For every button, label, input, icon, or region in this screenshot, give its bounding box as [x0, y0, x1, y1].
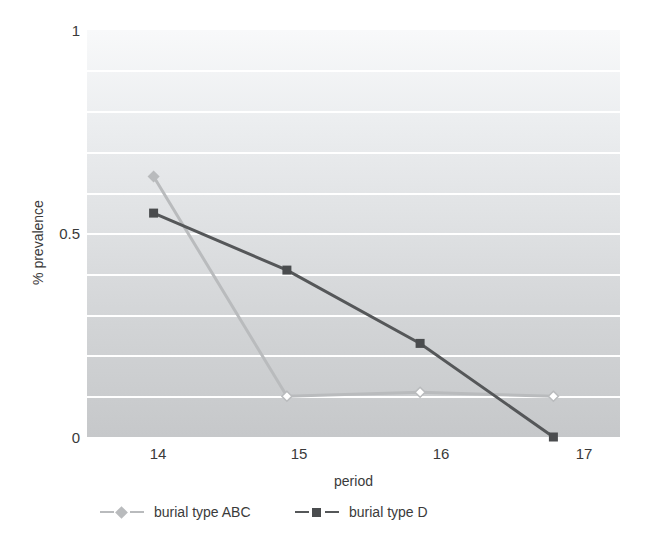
- legend-swatch-d: [295, 505, 339, 519]
- gridline-0.4: [87, 274, 620, 276]
- legend-entry-burial-type-d[interactable]: burial type D: [295, 500, 428, 524]
- y-axis-title: % prevalence: [31, 183, 46, 303]
- square-marker-icon: [312, 508, 321, 517]
- x-axis-title: period: [87, 473, 620, 489]
- gridline-0.1: [87, 396, 620, 398]
- line-chart: 1 0.5 0 14 15 16 17 % prevalence period …: [0, 0, 672, 553]
- gridline-0.9: [87, 70, 620, 72]
- x-tick-14: 14: [128, 446, 188, 462]
- y-tick-0.5: 0.5: [40, 226, 80, 241]
- legend-line-right-icon: [130, 511, 144, 513]
- legend-entry-burial-type-abc[interactable]: burial type ABC: [100, 500, 251, 524]
- gridline-0.5: [87, 233, 620, 235]
- legend-swatch-abc: [100, 505, 144, 519]
- legend-label-d: burial type D: [349, 504, 428, 520]
- legend-line-left-icon: [100, 511, 114, 513]
- y-tick-1: 1: [40, 23, 80, 38]
- x-tick-16: 16: [411, 446, 471, 462]
- gridline-0.3: [87, 315, 620, 317]
- y-tick-0: 0: [40, 430, 80, 445]
- legend-line-right-icon: [325, 511, 339, 513]
- diamond-marker-icon: [115, 506, 128, 519]
- legend: burial type ABC burial type D: [87, 500, 620, 526]
- legend-line-left-icon: [295, 511, 309, 513]
- gridline-0.7: [87, 152, 620, 154]
- gridline-0.8: [87, 111, 620, 113]
- gridline-0.2: [87, 355, 620, 357]
- gridline-0.6: [87, 193, 620, 195]
- x-tick-17: 17: [554, 446, 614, 462]
- legend-label-abc: burial type ABC: [154, 504, 251, 520]
- x-tick-15: 15: [269, 446, 329, 462]
- plot-area: [87, 30, 620, 437]
